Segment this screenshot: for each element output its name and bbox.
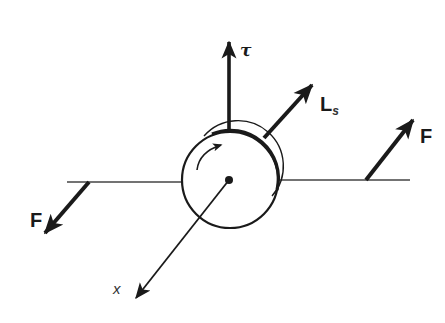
spin-angular-momentum-arrow xyxy=(264,85,312,138)
force-right-label: F xyxy=(420,125,432,147)
force-left-arrow xyxy=(45,182,89,233)
spin-label-subscript: s xyxy=(332,104,339,118)
x-axis-arrow xyxy=(136,180,229,298)
force-right-arrow xyxy=(366,120,413,180)
spin-label-main: L xyxy=(320,93,332,115)
spin-angular-momentum-label: Ls xyxy=(320,93,339,118)
force-left-label: F xyxy=(30,209,42,231)
gyroscope-diagram: τ Ls F F x xyxy=(0,0,445,323)
torque-label: τ xyxy=(240,40,252,60)
x-axis-label: x xyxy=(112,280,121,297)
